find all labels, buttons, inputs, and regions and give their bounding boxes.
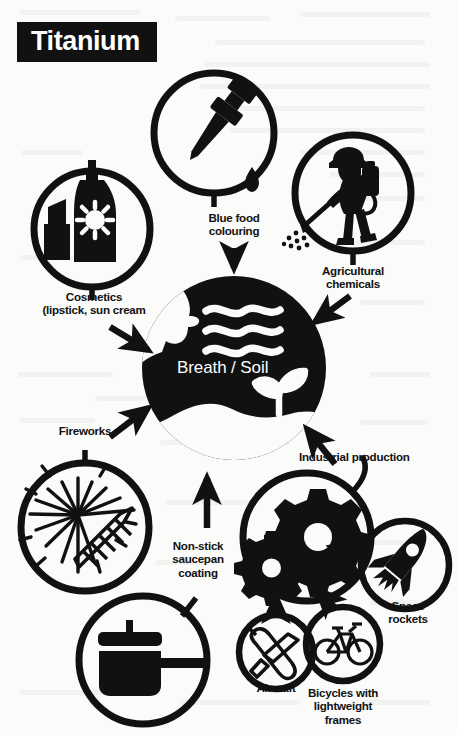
label-non-stick-saucepan-coating: Non-stick saucepan coating — [149, 539, 247, 579]
center-label: Breath / Soil — [177, 358, 268, 378]
node-cosmetics[interactable] — [34, 160, 150, 300]
node-fireworks[interactable] — [20, 450, 149, 591]
arrow-cosmetics — [110, 327, 148, 350]
saucepan-with-lid-icon — [98, 620, 209, 696]
page-title: Titanium — [17, 22, 157, 62]
firework-rocket-shape — [75, 508, 132, 567]
node-agricultural-chemicals[interactable] — [282, 135, 411, 265]
label-agricultural-chemicals: Agricultural chemicals — [297, 264, 409, 291]
infographic-page: Titanium — [0, 0, 457, 735]
node-aircraft[interactable] — [239, 615, 313, 689]
node-bicycles[interactable] — [306, 607, 380, 681]
node-non-stick-saucepan-coating[interactable] — [79, 596, 209, 724]
label-space-rockets: Space rockets — [372, 599, 444, 626]
airplane-icon — [250, 629, 298, 679]
label-cosmetics: Cosmetics (lipstick, sun cream — [28, 290, 160, 317]
node-blue-food-colouring[interactable] — [154, 73, 274, 207]
dropper-pipette-icon — [177, 74, 260, 192]
node-space-rockets[interactable] — [361, 518, 449, 609]
label-bicycles: Bicycles with lightweight frames — [295, 686, 391, 726]
label-blue-food-colouring: Blue food colouring — [184, 211, 284, 238]
arrow-agricultural-chemicals — [315, 296, 350, 322]
bicycle-icon — [315, 624, 372, 664]
label-industrial-production: Industrial production — [299, 450, 439, 463]
label-fireworks: Fireworks — [33, 424, 137, 437]
node-industrial-production[interactable] — [234, 456, 372, 606]
